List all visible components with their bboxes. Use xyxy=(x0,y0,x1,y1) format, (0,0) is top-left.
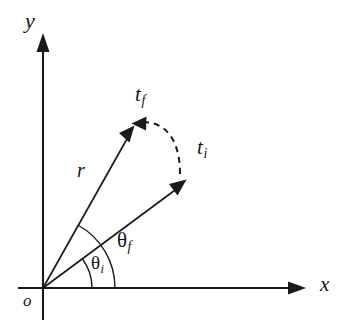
diagram-canvas: y x o r tf ti θf θi xyxy=(0,0,349,336)
initial-vector-line xyxy=(43,188,179,289)
theta-f-label: θf xyxy=(117,230,131,251)
theta-i-label-base: θ xyxy=(91,252,100,273)
origin-label: o xyxy=(23,292,32,309)
final-vector-group xyxy=(43,126,135,289)
x-axis-label: x xyxy=(320,274,329,295)
rotation-arc-group xyxy=(132,117,181,175)
rotation-dashed-arc xyxy=(143,122,180,174)
final-vector-arrowhead xyxy=(119,126,135,143)
vector-diagram-svg xyxy=(0,0,349,336)
y-axis-arrowhead xyxy=(37,33,50,52)
axes-group xyxy=(18,33,306,320)
final-vector-label: tf xyxy=(135,84,145,105)
initial-vector-label-subscript: i xyxy=(203,146,207,161)
final-vector-line xyxy=(43,138,128,288)
theta-f-label-subscript: f xyxy=(128,239,132,254)
y-axis-label: y xyxy=(25,10,35,32)
theta-i-label-subscript: i xyxy=(101,262,104,276)
initial-vector-label: ti xyxy=(197,137,207,158)
initial-vector-label-base: t xyxy=(197,135,203,159)
final-vector-label-base: t xyxy=(135,82,141,106)
rotation-arc-arrowhead xyxy=(132,117,147,131)
radius-label: r xyxy=(77,160,85,180)
final-vector-label-subscript: f xyxy=(141,93,145,108)
initial-vector-group xyxy=(43,180,187,289)
x-axis-arrowhead xyxy=(288,282,306,295)
theta-i-label: θi xyxy=(91,253,104,272)
theta-f-label-base: θ xyxy=(117,228,127,252)
